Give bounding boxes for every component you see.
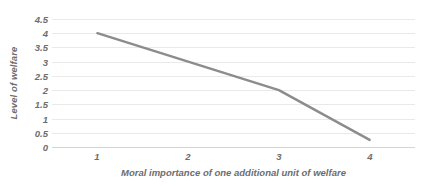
x-axis-title: Moral importance of one additional unit … <box>52 167 415 179</box>
series-polyline <box>97 33 369 140</box>
x-axis-tick-label: 4 <box>355 151 385 163</box>
y-axis-title: Level of welfare <box>7 8 21 158</box>
x-axis-tick-label: 3 <box>264 151 294 163</box>
plot-area <box>52 19 415 147</box>
y-axis-tick-label: 3.5 <box>22 42 48 53</box>
y-axis-tick-label: 4 <box>22 28 48 39</box>
y-axis-tick-label: 1 <box>22 114 48 125</box>
x-axis-tick-label: 2 <box>173 151 203 163</box>
y-axis-tick-label: 2 <box>22 85 48 96</box>
y-axis-tick-label: 1.5 <box>22 99 48 110</box>
x-axis-tick-labels: 1234 <box>52 151 415 164</box>
y-axis-tick-label: 0 <box>22 142 48 153</box>
x-axis-tick-label: 1 <box>82 151 112 163</box>
x-axis-line <box>52 147 415 148</box>
y-axis-tick-label: 2.5 <box>22 71 48 82</box>
y-axis-tick-label: 4.5 <box>22 14 48 25</box>
series-line-level-of-welfare <box>52 19 415 147</box>
line-chart: Level of welfare 4.543.532.521.510.50 12… <box>0 0 424 190</box>
y-axis-tick-label: 0.5 <box>22 128 48 139</box>
y-axis-tick-label: 3 <box>22 57 48 68</box>
y-axis-tick-labels: 4.543.532.521.510.50 <box>22 12 48 154</box>
